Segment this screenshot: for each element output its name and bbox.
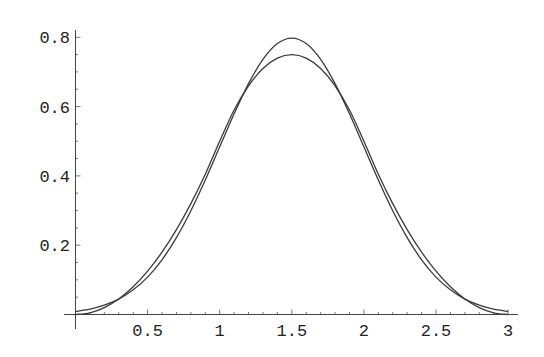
line-chart: 0.511.522.530.20.40.60.8 [0, 0, 544, 357]
x-tick-label: 0.5 [132, 322, 163, 341]
y-tick-label: 0.4 [39, 168, 70, 187]
ticks [76, 37, 509, 314]
x-tick-label: 2.5 [421, 322, 452, 341]
axes [64, 30, 518, 329]
x-tick-label: 1 [215, 322, 225, 341]
x-tick-label: 3 [503, 322, 513, 341]
tick-labels: 0.511.522.530.20.40.60.8 [39, 29, 513, 341]
curve-higher-peak [76, 38, 509, 311]
y-tick-label: 0.6 [39, 99, 70, 118]
x-tick-label: 2 [359, 322, 369, 341]
series-group [76, 38, 509, 314]
y-tick-label: 0.8 [39, 29, 70, 48]
curve-lower-peak [76, 55, 509, 315]
x-tick-label: 1.5 [276, 322, 307, 341]
y-tick-label: 0.2 [39, 237, 70, 256]
